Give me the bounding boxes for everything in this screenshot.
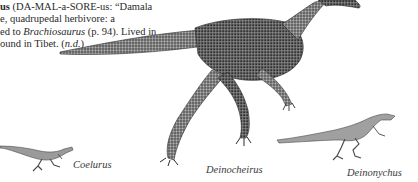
caption-deinonychus: Deinonychus xyxy=(347,167,402,178)
deinonychus-illustration xyxy=(275,112,418,164)
caption-coelurus: Coelurus xyxy=(73,159,112,170)
encyclopedia-page: us (DA-MAL-a-SORE-us: “Damala e, quadrup… xyxy=(0,0,418,182)
caption-deinocheirus: Deinocheirus xyxy=(206,164,263,175)
coelurus-illustration xyxy=(0,140,80,174)
